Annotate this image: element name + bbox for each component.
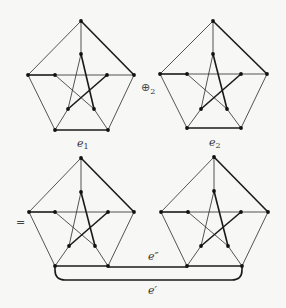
graph-edge xyxy=(68,54,81,109)
graph-edge xyxy=(81,54,94,109)
graph-vertex xyxy=(79,190,83,194)
graph-edge xyxy=(28,75,55,130)
oplus-2-operator: ⊕2 xyxy=(141,81,155,96)
edge-label-e-prime: e′ xyxy=(148,284,158,297)
graph-vertex xyxy=(93,244,97,248)
graph-vertex xyxy=(53,128,57,132)
petersen-2-sum-diagram: e1e2 ⊕2 = e″ e′ xyxy=(0,0,286,308)
graph-edge xyxy=(94,109,108,130)
graph-vertex xyxy=(53,73,57,77)
graph-vertex xyxy=(79,19,83,23)
graph-edge xyxy=(161,212,187,266)
graph-edge xyxy=(242,212,268,266)
labels-layer: ⊕2 = e″ e′ xyxy=(16,81,160,297)
graph-edge xyxy=(55,109,68,130)
graph-edge xyxy=(187,109,201,128)
graph-vertex xyxy=(212,189,216,193)
graph-vertex xyxy=(158,72,162,76)
graph-edge xyxy=(201,191,214,246)
graph-vertex xyxy=(199,107,203,111)
graph-vertex xyxy=(106,128,110,132)
graph-edge xyxy=(227,109,241,128)
graph-vertex xyxy=(239,210,243,214)
petersen-graph-bottom-left xyxy=(27,156,136,268)
graph-edge xyxy=(95,246,108,266)
graph-edge xyxy=(108,75,134,130)
graph-vertex xyxy=(159,210,163,214)
graph-vertex xyxy=(67,244,71,248)
graph-vertex xyxy=(211,19,215,23)
oplus-subscript: 2 xyxy=(150,87,155,96)
graph-vertex xyxy=(212,155,216,159)
graph-vertex xyxy=(266,210,270,214)
graph-vertex xyxy=(26,73,30,77)
oplus-symbol: ⊕ xyxy=(141,81,150,94)
graph-vertex xyxy=(105,73,109,77)
edge-label-e1: e1 xyxy=(77,137,89,151)
petersen-graph-top-right: e2 xyxy=(158,19,269,150)
graph-vertex xyxy=(185,126,189,130)
graph-edge xyxy=(161,157,214,212)
graph-edge xyxy=(241,74,267,128)
graph-vertex xyxy=(186,210,190,214)
graph-edge xyxy=(213,21,267,74)
graph-edge xyxy=(160,21,213,74)
graph-edge xyxy=(214,191,228,246)
graph-vertex xyxy=(265,72,269,76)
graph-vertex xyxy=(211,52,215,56)
graph-edge xyxy=(81,21,134,75)
graph-vertex xyxy=(132,73,136,77)
graph-vertex xyxy=(27,210,31,214)
graph-vertex xyxy=(185,72,189,76)
graph-edge xyxy=(29,212,55,266)
graph-vertex xyxy=(53,210,57,214)
graph-vertex xyxy=(66,107,70,111)
graph-vertex xyxy=(239,126,243,130)
graph-vertex xyxy=(239,72,243,76)
graph-vertex xyxy=(132,210,136,214)
graph-edge xyxy=(213,54,227,109)
graph-edge xyxy=(228,246,242,266)
graph-edge xyxy=(55,246,69,266)
graph-edge xyxy=(108,212,134,266)
graphs-layer: e1e2 xyxy=(26,19,270,268)
graph-edge xyxy=(81,192,95,246)
graph-vertex xyxy=(226,244,230,248)
graph-vertex xyxy=(79,156,83,160)
equals-operator: = xyxy=(16,216,25,229)
graph-edge xyxy=(28,21,81,75)
edge-label-e-double-prime: e″ xyxy=(148,250,160,263)
petersen-graph-bottom-right xyxy=(159,155,270,268)
petersen-graph-top-left: e1 xyxy=(26,19,136,151)
edge-e-prime xyxy=(55,266,242,280)
graph-edge xyxy=(160,74,187,128)
graph-edge xyxy=(29,158,81,212)
graph-edge xyxy=(81,158,134,212)
graph-edge xyxy=(214,157,268,212)
graph-vertex xyxy=(92,107,96,111)
edge-label-e2: e2 xyxy=(209,136,221,150)
graph-edge xyxy=(187,246,201,266)
graph-vertex xyxy=(199,244,203,248)
connecting-edges xyxy=(55,266,242,280)
graph-vertex xyxy=(79,52,83,56)
graph-vertex xyxy=(106,210,110,214)
graph-vertex xyxy=(225,107,229,111)
